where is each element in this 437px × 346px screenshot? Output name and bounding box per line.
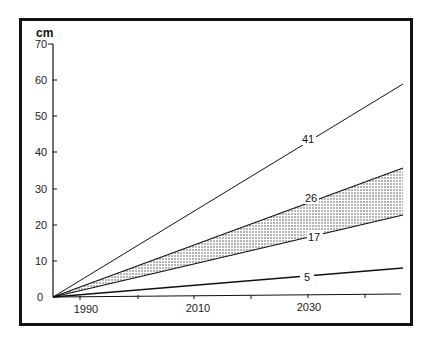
y-tick-60: 60	[35, 74, 47, 86]
y-tick-50: 50	[35, 110, 47, 122]
y-tick-20: 20	[35, 219, 47, 231]
x-tick-2010: 2010	[186, 302, 210, 314]
y-tick-40: 40	[35, 146, 47, 158]
label-5: 5	[304, 271, 310, 283]
sea-level-chart: cm 0 10 20 30 40 50 60 70 41 26 17 5 19	[0, 0, 437, 346]
label-41: 41	[302, 133, 314, 145]
label-26: 26	[305, 192, 317, 204]
baseline-line	[53, 294, 401, 297]
y-tick-70: 70	[35, 38, 47, 50]
series-17-line	[53, 215, 403, 297]
y-tick-10: 10	[35, 255, 47, 267]
label-17: 17	[308, 231, 320, 243]
x-tick-2030: 2030	[297, 301, 321, 313]
y-tick-30: 30	[35, 183, 47, 195]
x-tick-1990: 1990	[74, 303, 98, 315]
series-26-line	[53, 168, 403, 297]
y-tick-0: 0	[37, 291, 43, 303]
